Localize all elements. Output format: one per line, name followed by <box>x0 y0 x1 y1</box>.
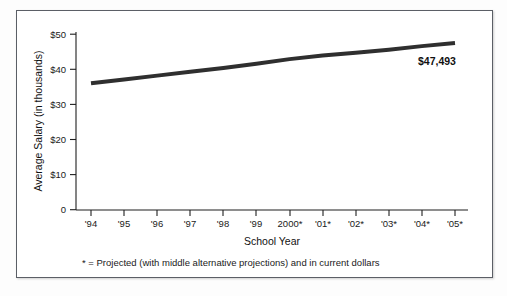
y-tick-label: $40 <box>50 64 66 75</box>
x-tick-label: '94 <box>85 218 97 229</box>
x-tick-label: '02* <box>348 218 364 229</box>
y-axis-tick-labels: $50 $40 $30 $20 $10 0 <box>50 29 66 216</box>
x-tick-label: '01* <box>315 218 331 229</box>
x-tick-label: '95 <box>118 218 130 229</box>
x-tick-label: '04* <box>414 218 430 229</box>
x-tick-label: 2000* <box>278 218 303 229</box>
y-tick-label: $30 <box>50 99 66 110</box>
chart-footnote: * = Projected (with middle alternative p… <box>82 257 380 268</box>
x-tick-label: '96 <box>151 218 163 229</box>
y-tick-label: $20 <box>50 134 66 145</box>
y-axis-title: Average Salary (in thousands) <box>32 50 44 191</box>
y-tick-label: 0 <box>61 204 66 215</box>
x-tick-label: '97 <box>184 218 196 229</box>
x-tick-label: '05* <box>447 218 463 229</box>
x-axis-ticks <box>91 210 455 216</box>
x-tick-label: '99 <box>250 218 262 229</box>
y-tick-label: $10 <box>50 169 66 180</box>
x-axis-title: School Year <box>244 235 301 247</box>
chart-figure: $50 $40 $30 $20 $10 0 '94 '95 '96 <box>0 0 507 296</box>
x-axis-tick-labels: '94 '95 '96 '97 '98 '99 2000* '01* '02* … <box>85 218 464 229</box>
x-tick-label: '98 <box>217 218 229 229</box>
y-axis-ticks <box>70 34 76 210</box>
salary-line-chart: $50 $40 $30 $20 $10 0 '94 '95 '96 <box>0 0 507 296</box>
x-tick-label: '03* <box>381 218 397 229</box>
data-value-callout: $47,493 <box>418 55 456 67</box>
salary-data-line <box>91 43 455 83</box>
y-tick-label: $50 <box>50 29 66 40</box>
